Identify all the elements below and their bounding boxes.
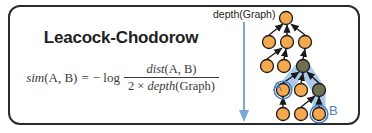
graph-node[interactable] [281,36,294,49]
formula-dist-symbol: dist [146,62,164,76]
formula-fraction: dist(A, B) 2 × depth(Graph) [124,62,219,94]
graph-node[interactable] [295,108,308,121]
formula-denominator: 2 × depth(Graph) [124,78,219,93]
graph-node-b[interactable] [313,108,326,121]
formula-depth-args: (Graph) [175,79,215,93]
formula-sim-symbol: sim [26,70,44,85]
graph-label-b: B [329,103,338,118]
formula-numerator: dist(A, B) [142,62,200,77]
formula-neg-log: − log [93,70,124,86]
graph-node[interactable] [299,36,312,49]
page-title: Leacock-Chodorow [26,28,216,48]
formula-dist-args: (A, B) [164,62,196,76]
formula-equals-sign: = [77,70,92,86]
formula-left-hand-side: sim(A, B) [26,70,77,86]
graph-label-a: A [273,79,282,94]
graph-node-path[interactable] [313,84,326,97]
graph-node[interactable] [261,60,274,73]
formula-sim-args: (A, B) [44,70,77,85]
taxonomy-graph [236,4,364,128]
similarity-formula: sim(A, B) = − log dist(A, B) 2 × depth(G… [20,62,225,94]
graph-node[interactable] [263,36,276,49]
figure-root: Leacock-Chodorow sim(A, B) = − log dist(… [0,0,372,133]
graph-node[interactable] [277,108,290,121]
formula-depth-symbol: depth [148,79,176,93]
formula-denominator-prefix: 2 × [128,79,148,93]
graph-node-lcs[interactable] [297,60,310,73]
graph-node-root[interactable] [280,12,293,25]
graph-node[interactable] [295,84,308,97]
graph-node[interactable] [278,60,291,73]
